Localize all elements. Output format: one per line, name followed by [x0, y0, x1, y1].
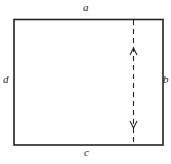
label-top: a	[83, 1, 89, 13]
label-left: d	[3, 73, 9, 85]
diagram-canvas	[0, 0, 171, 164]
label-right: b	[163, 73, 169, 85]
rectangle	[14, 20, 163, 146]
label-bottom: c	[84, 146, 89, 158]
